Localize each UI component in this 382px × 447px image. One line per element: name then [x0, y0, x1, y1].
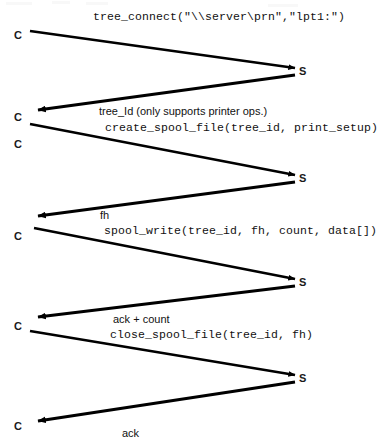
message-arrow-tree-connect-request: [30, 31, 295, 68]
client-actor-label: C: [14, 139, 22, 150]
message-label-create-spool-file-request: create_spool_file(tree_id, print_setup): [105, 121, 378, 134]
message-arrow-create-spool-file-response: [38, 182, 295, 216]
client-actor-label: C: [14, 421, 22, 432]
message-label-close-spool-file-request: close_spool_file(tree_id, fh): [110, 328, 313, 341]
client-actor-label: C: [14, 30, 22, 41]
server-actor-label: S: [299, 277, 306, 288]
message-label-spool-write-request: spool_write(tree_id, fh, count, data[]): [104, 224, 377, 237]
server-actor-label: S: [299, 373, 306, 384]
message-label-create-spool-file-response: fh: [100, 209, 109, 222]
server-actor-label: S: [299, 66, 306, 77]
message-label-spool-write-response: ack + count: [113, 313, 170, 326]
message-label-close-spool-file-response: ack: [122, 427, 139, 440]
message-arrow-close-spool-file-response: [38, 382, 295, 421]
client-actor-label: C: [14, 321, 22, 332]
server-actor-label: S: [299, 173, 306, 184]
client-actor-label: C: [14, 112, 22, 123]
message-label-tree-connect-request: tree_connect("\\server\prn","lpt1:"): [93, 10, 345, 23]
client-actor-label: C: [14, 231, 22, 242]
message-label-tree-connect-response: tree_Id (only supports printer ops.): [99, 105, 267, 118]
sequence-diagram: CCCCCCSSSS tree_connect("\\server\prn","…: [0, 0, 382, 447]
